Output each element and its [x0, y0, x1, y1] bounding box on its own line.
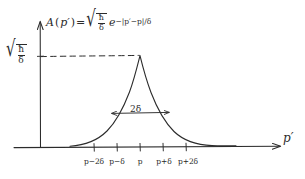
fraction-numerator: ħ: [99, 14, 104, 23]
x-axis: [14, 146, 280, 147]
dashed-guide-line: [41, 55, 139, 56]
paren-open: (: [55, 17, 59, 28]
fraction-numerator: ħ: [18, 45, 24, 55]
fraction-denominator: δ: [99, 24, 104, 33]
x-tick-label: p−2δ: [84, 157, 104, 166]
amplitude-curve: [70, 56, 236, 147]
radicand: ħ δ: [96, 13, 107, 32]
fraction-denominator: δ: [18, 56, 23, 66]
title-formula: A ( p′ ) = √ ħ δ e −|p′−p|/δ: [46, 13, 151, 32]
x-tick-label: p+δ: [156, 157, 171, 166]
width-annotation-label: 2δ: [130, 105, 141, 114]
fraction-hbar-over-delta: ħ δ: [97, 14, 106, 32]
x-axis-label: p′: [283, 132, 293, 144]
radicand: ħ δ: [16, 44, 27, 65]
fraction-hbar-over-delta: ħ δ: [17, 45, 26, 65]
function-name: A: [46, 17, 54, 28]
sqrt-amplitude: √ ħ δ: [86, 13, 107, 32]
x-tick-label: p+2δ: [178, 157, 198, 166]
sqrt-y-value: √ ħ δ: [6, 44, 27, 65]
equals-sign: =: [76, 17, 85, 28]
figure-canvas: A ( p′ ) = √ ħ δ e −|p′−p|/δ √ ħ: [0, 0, 305, 179]
x-tick-label: p: [138, 157, 143, 166]
paren-close: ): [71, 17, 75, 28]
radical-sign: √: [6, 38, 16, 70]
function-argument: p′: [60, 17, 70, 28]
x-tick-label: p−δ: [109, 157, 124, 166]
y-axis-value-label: √ ħ δ: [6, 44, 27, 65]
exponent-expression: −|p′−p|/δ: [115, 18, 151, 26]
radical-sign: √: [86, 8, 96, 37]
